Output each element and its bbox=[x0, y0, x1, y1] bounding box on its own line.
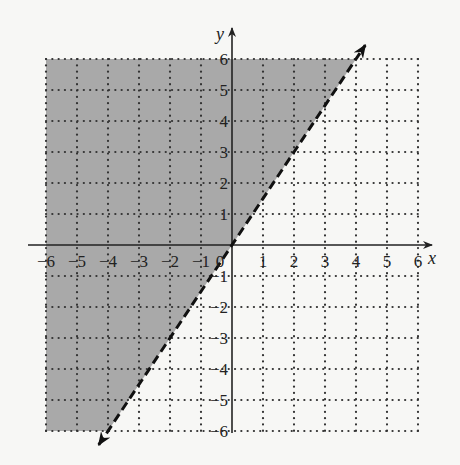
x-tick-label: −4 bbox=[99, 252, 118, 271]
y-tick-label: −6 bbox=[210, 422, 228, 441]
x-tick-label: −5 bbox=[68, 252, 86, 271]
x-tick-label: 6 bbox=[414, 252, 423, 271]
x-axis-label: x bbox=[427, 248, 436, 268]
x-tick-label: −6 bbox=[37, 252, 55, 271]
y-tick-label: 3 bbox=[220, 143, 229, 162]
x-tick-label: 4 bbox=[352, 252, 361, 271]
y-tick-label: −2 bbox=[210, 298, 228, 317]
y-tick-label: −3 bbox=[210, 329, 228, 348]
x-tick-label: 3 bbox=[321, 252, 330, 271]
y-tick-label: 4 bbox=[220, 112, 229, 131]
y-tick-label: −5 bbox=[210, 391, 228, 410]
x-tick-label: −1 bbox=[192, 252, 210, 271]
x-tick-label: 2 bbox=[290, 252, 299, 271]
y-tick-label: −4 bbox=[210, 360, 229, 379]
y-tick-label: −1 bbox=[210, 267, 228, 286]
x-tick-label: −3 bbox=[130, 252, 148, 271]
x-tick-label: −2 bbox=[161, 252, 179, 271]
y-axis-label: y bbox=[214, 24, 224, 44]
y-tick-label: 1 bbox=[220, 205, 229, 224]
x-tick-label: 5 bbox=[383, 252, 392, 271]
y-tick-label: 6 bbox=[220, 50, 229, 69]
y-tick-label: 2 bbox=[220, 174, 229, 193]
x-tick-label: 1 bbox=[259, 252, 268, 271]
inequality-graph: −6−5−4−3−2−10123456−6−5−4−3−2−1123456 x … bbox=[0, 0, 460, 465]
y-tick-label: 5 bbox=[220, 81, 229, 100]
